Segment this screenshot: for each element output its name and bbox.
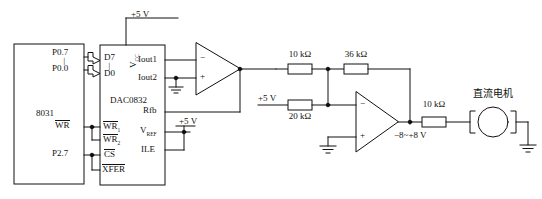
motor-bracket-right — [511, 111, 516, 133]
dac-pin-rfb: Rfb — [143, 106, 157, 115]
mcu-pin-p07: P0.7 — [52, 48, 68, 57]
junction-opamp2-out — [408, 120, 412, 124]
resistor-r3-20k — [288, 100, 312, 110]
dac-pin-wr2: WR2 — [103, 134, 120, 146]
motor-label: 直流电机 — [473, 89, 513, 99]
resistor-r4-10k — [422, 117, 446, 127]
output-voltage-range-label: −8~+8 V — [394, 131, 427, 140]
dac-pin-vref: VREF — [140, 126, 157, 137]
power-label-vcc-top: +5 V — [131, 10, 149, 19]
resistor-label-r2: 36 kΩ — [345, 50, 367, 59]
mcu-pin-wr: WR — [55, 120, 70, 130]
mcu-label-8031: 8031 — [36, 109, 54, 118]
bus-arrow-upper — [88, 53, 100, 64]
motor-body — [478, 107, 508, 137]
mcu-pin-p00: P0.0 — [52, 64, 68, 73]
resistor-r1-10k — [288, 64, 312, 74]
dac-pin-cs: CS — [104, 149, 115, 159]
resistor-r2-36k — [344, 64, 368, 74]
opamp1-minus-sign: − — [200, 53, 205, 62]
motor-bracket-left — [470, 111, 475, 133]
mcu-pin-p27: P2.7 — [52, 149, 68, 158]
resistor-label-r4: 10 kΩ — [423, 100, 445, 109]
power-label-bias-5v: +5 V — [258, 94, 276, 103]
bus-arrow-lower — [88, 66, 100, 77]
dac-pin-d0: D0 — [104, 69, 115, 78]
dac-pin-iout1: Iout1 — [138, 55, 157, 64]
dac-label-0832: DAC0832 — [110, 96, 147, 105]
circuit-diagram: +5 V 8031 P0.7 │ P0.0 WR P2.7 D7 │ D0 VC… — [0, 0, 542, 199]
opamp2-plus-sign: + — [360, 131, 365, 140]
dac-pin-wr1: WR1 — [103, 121, 120, 133]
resistor-label-r1: 10 kΩ — [289, 50, 311, 59]
dac-pin-d7: D7 — [104, 53, 115, 62]
opamp1-plus-sign: + — [200, 72, 205, 81]
dac-pin-ile: ILE — [141, 145, 155, 154]
resistor-label-r3: 20 kΩ — [289, 112, 311, 121]
dac-pin-xfer: XFER — [102, 164, 125, 174]
opamp2-minus-sign: − — [360, 99, 365, 108]
dac-pin-iout2: Iout2 — [138, 73, 157, 82]
power-label-vref-5v: +5 V — [179, 117, 197, 126]
opamp1-triangle — [196, 43, 240, 95]
